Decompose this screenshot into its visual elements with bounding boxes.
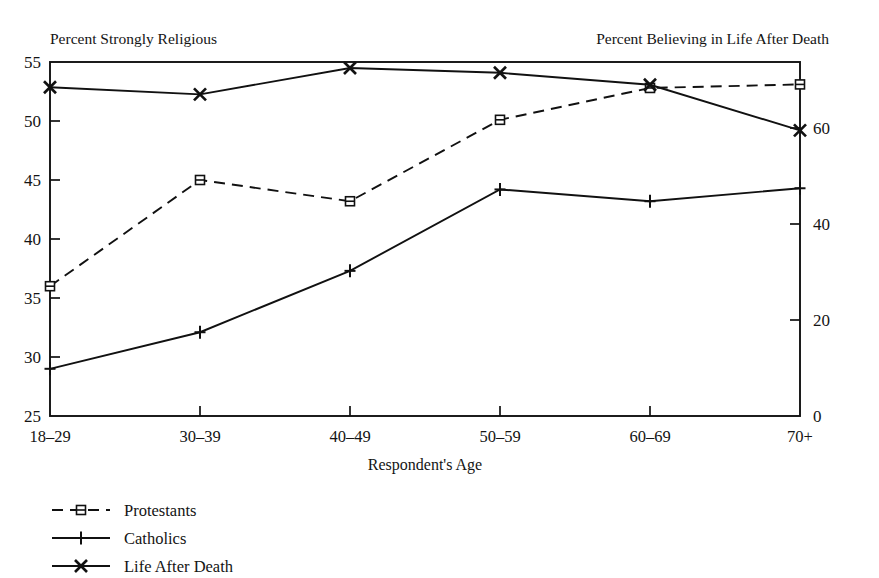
legend-item-protestants[interactable]: Protestants bbox=[52, 501, 196, 520]
x-tick-label: 40–49 bbox=[329, 427, 370, 446]
left-tick-label: 30 bbox=[24, 348, 41, 367]
left-tick-label: 55 bbox=[24, 53, 41, 72]
right-tick-label: 60 bbox=[813, 119, 830, 138]
left-axis-title: Percent Strongly Religious bbox=[50, 30, 217, 47]
chart-container: Percent Strongly Religious Percent Belie… bbox=[0, 0, 879, 578]
series-protestants bbox=[46, 80, 805, 291]
left-axis-ticks: 25303540455055 bbox=[24, 53, 60, 426]
x-tick-label: 60–69 bbox=[629, 427, 670, 446]
x-tick-label: 18–29 bbox=[29, 427, 70, 446]
legend-item-catholics[interactable]: Catholics bbox=[52, 529, 186, 548]
plot-frame bbox=[50, 62, 800, 416]
left-tick-label: 25 bbox=[24, 407, 41, 426]
series-line bbox=[50, 68, 800, 130]
legend-label: Protestants bbox=[124, 501, 196, 520]
x-tick-label: 50–59 bbox=[479, 427, 520, 446]
x-tick-label: 70+ bbox=[787, 427, 813, 446]
legend-label: Catholics bbox=[124, 529, 186, 548]
x-axis-ticks: 18–2930–3940–4950–5960–6970+ bbox=[29, 406, 813, 446]
series-line bbox=[50, 84, 800, 286]
left-tick-label: 40 bbox=[24, 230, 41, 249]
x-tick-label: 30–39 bbox=[179, 427, 220, 446]
legend-item-life-after-death[interactable]: Life After Death bbox=[52, 557, 234, 576]
left-tick-label: 45 bbox=[24, 171, 41, 190]
series-life-after-death bbox=[44, 62, 806, 136]
left-tick-label: 35 bbox=[24, 289, 41, 308]
x-axis-title: Respondent's Age bbox=[368, 456, 482, 474]
right-tick-label: 0 bbox=[813, 407, 822, 426]
right-axis-title: Percent Believing in Life After Death bbox=[596, 30, 829, 47]
series-line bbox=[50, 188, 800, 369]
series-layer bbox=[44, 62, 806, 375]
chart-legend: ProtestantsCatholicsLife After Death bbox=[52, 501, 234, 576]
right-axis-ticks: 0204060 bbox=[790, 119, 830, 426]
left-tick-label: 50 bbox=[24, 112, 41, 131]
religiosity-by-age-line-chart: Percent Strongly Religious Percent Belie… bbox=[0, 0, 879, 578]
right-tick-label: 20 bbox=[813, 311, 830, 330]
series-catholics bbox=[45, 182, 806, 376]
right-tick-label: 40 bbox=[813, 215, 830, 234]
legend-label: Life After Death bbox=[124, 557, 234, 576]
